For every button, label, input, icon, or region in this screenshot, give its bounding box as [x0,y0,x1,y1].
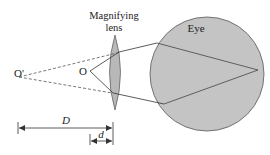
lens-label-line2: lens [106,22,123,33]
lens-label-line1: Magnifying [89,10,139,21]
eye-label: Eye [187,22,204,34]
image-label: O' [14,67,24,79]
dimension-D-label: D [61,114,70,126]
magnifying-lens [110,35,121,110]
ray-lens-eye-top [119,43,157,52]
virtual-ray-top [19,52,121,77]
virtual-ray-bottom [19,77,112,93]
magnifier-diagram: Magnifying lens Eye O O' D d [0,0,270,155]
dimension-d-label: d [98,128,104,140]
object-label: O [79,65,87,77]
